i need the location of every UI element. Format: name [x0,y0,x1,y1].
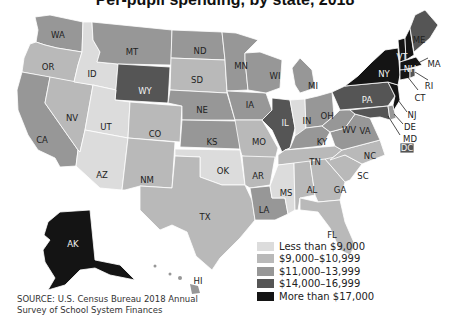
label-mo: MO [252,137,266,147]
label-ok: OK [217,166,230,176]
label-nc: NC [364,151,376,161]
label-ks: KS [207,137,218,147]
label-me: ME [413,35,426,45]
state-wy[interactable] [115,64,170,103]
label-nv: NV [66,113,78,123]
legend-swatch [257,242,274,251]
legend-label: Less than $9,000 [279,241,365,252]
label-pa: PA [362,95,373,105]
label-ky: KY [317,137,328,147]
source-line-1: SOURCE: U.S. Census Bureau 2018 Annual [17,294,198,305]
label-ia: IA [246,100,255,110]
legend-label: $14,000–16,999 [279,278,360,289]
leader-ct [407,76,418,90]
label-sd: SD [191,75,203,85]
label-il: IL [281,118,289,128]
label-vt: VT [396,52,408,62]
label-ny: NY [378,69,390,79]
source-line-2: Survey of School System Finances [17,305,198,316]
label-tx: TX [198,212,210,222]
us-map: WA OR CA NV ID MT WY UT CO AZ NM ND SD N… [0,0,450,321]
state-az[interactable] [76,130,128,190]
label-oh: OH [320,111,333,121]
label-mi: MI [308,81,318,91]
source-note: SOURCE: U.S. Census Bureau 2018 Annual S… [17,294,198,315]
legend-label: $9,000–$10,999 [279,253,360,264]
legend-item: $9,000–$10,999 [257,253,374,266]
leader-nj [398,100,407,112]
leader-ri [415,72,428,80]
label-ca: CA [36,135,48,145]
state-ak[interactable] [43,210,135,290]
label-va: VA [359,126,370,136]
label-ri: RI [425,81,433,91]
label-ms: MS [280,188,293,198]
label-dc: DC [401,143,414,153]
label-hi: HI [194,276,203,286]
label-mt: MT [126,47,139,57]
leader-de [394,114,403,124]
state-me[interactable] [410,10,438,52]
legend-label: More than $17,000 [279,291,374,302]
label-id: ID [87,69,97,79]
label-nj: NJ [408,110,417,120]
legend-label: $11,000–13,999 [279,266,360,277]
legend-item: $11,000–13,999 [257,265,374,278]
label-ct: CT [414,93,426,103]
label-fl: FL [327,230,337,240]
label-ne: NE [196,105,208,115]
label-in: IN [303,116,312,126]
label-wy: WY [138,86,152,96]
legend-swatch [257,279,274,288]
legend-item: $14,000–16,999 [257,278,374,291]
label-ut: UT [100,122,112,132]
label-ma: MA [427,59,440,69]
label-wa: WA [51,30,65,40]
state-ny[interactable] [345,48,400,86]
label-sc: SC [357,171,368,181]
label-ar: AR [252,171,264,181]
label-az: AZ [96,170,108,180]
label-or: OR [42,62,55,72]
label-co: CO [149,129,162,139]
label-wv: WV [342,125,356,135]
label-tn: TN [308,157,321,167]
legend-swatch [257,267,274,276]
legend-item: Less than $9,000 [257,240,374,253]
legend-item: More than $17,000 [257,290,374,303]
legend-swatch [257,292,274,301]
label-ak: AK [67,239,79,249]
label-de: DE [404,122,416,132]
label-nm: NM [140,175,154,185]
legend: Less than $9,000 $9,000–$10,999 $11,000–… [257,240,374,303]
label-ga: GA [334,185,347,195]
label-la: LA [259,205,270,215]
label-nd: ND [194,46,207,56]
label-wi: WI [270,71,281,81]
label-nh: NH [404,64,417,74]
label-al: AL [307,185,318,195]
legend-swatch [257,254,274,263]
label-mn: MN [234,61,248,71]
state-mt[interactable] [92,22,172,65]
